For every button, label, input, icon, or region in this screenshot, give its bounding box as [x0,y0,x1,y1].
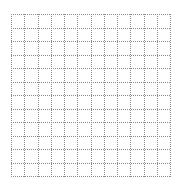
grid-lines [11,14,171,177]
dotted-grid [11,14,171,177]
canvas [0,0,179,187]
